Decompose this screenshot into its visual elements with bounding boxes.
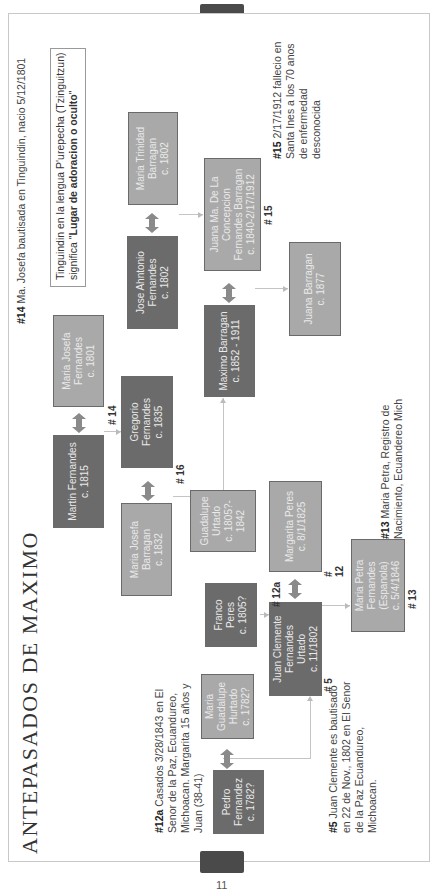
person-surname: Barragan: [141, 521, 153, 578]
note-5-tag: #5: [327, 821, 339, 833]
person-box-pedro[interactable]: Pedro Fernandez c. 1782?: [213, 770, 264, 834]
person-surname: Fernandes Barragan: [233, 169, 245, 261]
person-box-maria-josefa-barragan[interactable]: Maria Josefa Barragan c. 1832: [121, 503, 172, 596]
person-surname: Urtado: [211, 497, 223, 546]
person-date-2: 1842: [235, 497, 247, 546]
callout-line-1: Tinguindin en la lengua P'urepecha (Tzin…: [54, 55, 67, 280]
callout-suffix: ": [67, 90, 79, 94]
person-box-martin-fernandes[interactable]: Martin Fernandes c. 1815: [53, 435, 104, 528]
person-box-guadalupe-urtado[interactable]: Guadalupe Urtado c. 1805?- 1842: [190, 490, 256, 552]
person-box-margarita-peres[interactable]: Margarita Peres c. 8/1/1825: [269, 481, 322, 572]
note-13: #13 Maria Petra, Registro de Nacimiento,…: [379, 389, 405, 539]
person-date: c. 1852 - 1911: [230, 312, 242, 391]
person-name: Franco: [213, 596, 225, 634]
person-date: c. 1802: [159, 251, 171, 314]
person-date: c. 1815: [79, 442, 91, 520]
person-box-juan-clemente[interactable]: Juan Clemente Fernandes Urtado c. 11/180…: [269, 602, 322, 696]
ref-tag-5: # 5: [323, 678, 334, 692]
person-box-franco-peres[interactable]: Franco Peres c. 1805?: [205, 583, 257, 647]
person-date: c. 1801: [85, 332, 97, 389]
person-surname: Fernandes: [147, 251, 159, 314]
person-name: Jose Ahntonio: [135, 251, 147, 314]
person-lines: Martin Fernandes c. 1815: [67, 442, 91, 520]
person-lines: Maria Josefa Fernandes c. 1801: [61, 332, 97, 389]
person-surname: Barragan: [147, 127, 159, 190]
arrowhead-icon: [220, 398, 226, 403]
person-lines: Jose Ahntonio Fernandes c. 1802: [135, 251, 171, 314]
person-date: c. 11/1802: [308, 615, 320, 682]
person-box-juana-barragan[interactable]: Juana Barragan c. 1877: [289, 242, 341, 336]
ref-tag-14: # 14: [107, 406, 118, 425]
person-name-2: Guadalupe: [216, 682, 228, 731]
person-surname: Fernandez: [233, 778, 245, 826]
note-5: #5 Juan Clemente es bautisado en 22 de N…: [327, 673, 379, 833]
person-surname: Peres: [225, 596, 237, 634]
person-lines: Juan Clemente Fernandes Urtado c. 11/180…: [272, 615, 320, 682]
connector-line: [223, 398, 224, 497]
person-box-maria-guadalupe-hurtado[interactable]: Maria Guadalupe Hurtado c. 1782?: [201, 674, 254, 739]
binder-tab-bottom: [200, 851, 244, 873]
rotated-page: ANTEPASADOS DE MAXIMO #14 Ma. Josefa bau…: [8, 13, 435, 862]
ref-tag-12a: # 12a: [271, 582, 282, 607]
person-surname-2: Urtado: [296, 615, 308, 682]
person-box-maria-josefa-fernandes[interactable]: Maria Josefa Fernandes c. 1801: [53, 315, 104, 407]
person-name: Maria Trinidad: [135, 127, 147, 190]
person-date: c. 1782?: [240, 682, 252, 731]
person-name: Gregorio: [129, 398, 141, 446]
ref-tag-13: # 13: [407, 590, 418, 609]
person-date: c. 1782?: [245, 778, 257, 826]
ref-tag-15: # 15: [263, 206, 274, 225]
person-date: c. 1877: [315, 253, 327, 324]
person-name: Pedro: [221, 778, 233, 826]
person-lines: Juana Ma. De La Concepcion Fernandes Bar…: [209, 169, 257, 261]
person-surname: Fernandes: [73, 332, 85, 389]
page-title: ANTEPASADOS DE MAXIMO: [17, 531, 43, 854]
page-number: 11: [216, 879, 227, 889]
note-14-text: Ma. Josefa bautisada en Tinguindin, naci…: [15, 58, 27, 307]
spouse-arrow-icon: [287, 579, 303, 599]
connector-line: [310, 697, 311, 759]
person-lines: Maria Josefa Barragan c. 1832: [129, 521, 165, 578]
person-name: Martin Fernandes: [67, 442, 79, 520]
person-date: c. 1840-2/17/1912: [245, 169, 257, 261]
person-lines: Maria Guadalupe Hurtado c. 1782?: [204, 682, 252, 731]
person-surname: Fernandes: [366, 560, 378, 612]
person-lines: Pedro Fernandez c. 1782?: [221, 778, 257, 826]
person-lines: Maria Petra Fernandes (Espanola) c. 5/4/…: [354, 560, 402, 612]
callout-bold: Lugar de adoracion o oculto: [67, 94, 79, 235]
note-15-text: 2/17/1912 fallecio en Santa Ines a los 7…: [271, 42, 322, 159]
person-name: Maximo Barragan: [218, 312, 230, 391]
note-13-text: Maria Petra, Registro de Nacimiento, Ecu…: [379, 399, 404, 539]
note-12a-tag: #12a: [153, 810, 165, 833]
person-lines: Franco Peres c. 1805?: [213, 596, 249, 634]
person-lines: Maria Trinidad Barragan c. 1802: [135, 127, 171, 190]
spouse-arrow-icon: [221, 283, 237, 303]
connector-line: [223, 758, 311, 759]
person-date: c. 1832: [153, 521, 165, 578]
person-name: Maria: [204, 682, 216, 731]
person-date: c. 5/4/1846: [390, 560, 402, 612]
tinguindin-callout: Tinguindin en la lengua P'urepecha (Tzin…: [50, 48, 86, 287]
person-box-gregorio[interactable]: Gregorio Fernandes c. 1835: [121, 376, 173, 468]
person-name: Juana Ma. De La: [209, 169, 221, 261]
person-surname: Fernandes: [141, 398, 153, 446]
note-15-tag: #15: [271, 141, 283, 159]
person-date: c. 1802: [159, 127, 171, 190]
person-box-jose-ahntonio[interactable]: Jose Ahntonio Fernandes c. 1802: [127, 236, 178, 329]
person-origin: (Espanola): [378, 560, 390, 612]
person-box-maria-petra[interactable]: Maria Petra Fernandes (Espanola) c. 5/4/…: [351, 539, 405, 632]
spouse-arrow-icon: [144, 213, 160, 233]
note-14: #14 Ma. Josefa bautisada en Tinguindin, …: [15, 34, 28, 324]
person-box-juana-concepcion[interactable]: Juana Ma. De La Concepcion Fernandes Bar…: [204, 158, 261, 271]
person-surname: Fernandes: [284, 615, 296, 682]
note-5-text: Juan Clemente es bautisado en 22 de Nov.…: [327, 681, 378, 833]
page-frame: ANTEPASADOS DE MAXIMO #14 Ma. Josefa bau…: [8, 13, 430, 862]
person-box-maria-trinidad[interactable]: Maria Trinidad Barragan c. 1802: [128, 112, 178, 205]
note-14-tag: #14: [15, 306, 27, 324]
spouse-arrow-icon: [140, 481, 156, 501]
ref-tag-12: # 12: [323, 566, 345, 577]
person-box-maximo[interactable]: Maximo Barragan c. 1852 - 1911: [204, 305, 255, 397]
person-date: c. 1805?-: [223, 497, 235, 546]
person-lines: Gregorio Fernandes c. 1835: [129, 398, 165, 446]
note-13-tag: #13: [379, 521, 391, 539]
